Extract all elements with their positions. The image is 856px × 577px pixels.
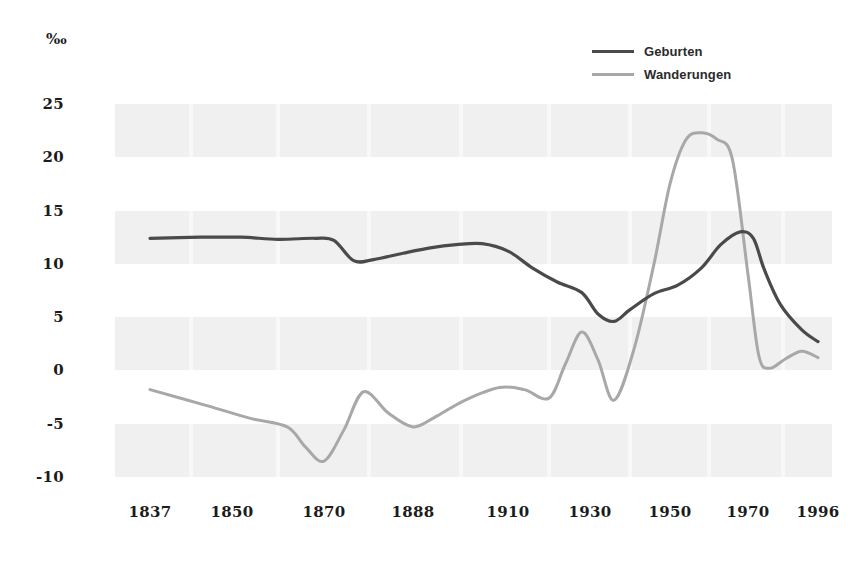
y-tick-label: 5 <box>0 308 64 326</box>
plot-area <box>115 88 832 493</box>
series-svg <box>115 88 832 493</box>
x-tick-label: 1930 <box>569 503 612 521</box>
series-line-geburten <box>150 232 818 342</box>
legend-label: Wanderungen <box>644 67 731 82</box>
x-tick-label: 1837 <box>129 503 172 521</box>
legend-label: Geburten <box>644 44 703 59</box>
chart-container: ‰ 2520151050-5-10 1837185018701888191019… <box>0 0 856 577</box>
legend-swatch-icon <box>592 73 634 76</box>
legend-swatch-icon <box>592 50 634 53</box>
y-tick-label: 25 <box>0 95 64 113</box>
legend: GeburtenWanderungen <box>592 44 731 82</box>
series-layer <box>115 88 832 493</box>
x-tick-label: 1870 <box>303 503 346 521</box>
y-tick-label: 10 <box>0 255 64 273</box>
y-tick-label: -10 <box>0 468 64 486</box>
y-tick-label: 20 <box>0 148 64 166</box>
x-tick-label: 1888 <box>392 503 435 521</box>
y-tick-label: -5 <box>0 415 64 433</box>
legend-item-geburten[interactable]: Geburten <box>592 44 731 59</box>
x-tick-label: 1910 <box>487 503 530 521</box>
legend-item-wanderungen[interactable]: Wanderungen <box>592 67 731 82</box>
y-tick-label: 0 <box>0 361 64 379</box>
x-tick-label: 1996 <box>797 503 840 521</box>
y-tick-label: 15 <box>0 202 64 220</box>
x-tick-label: 1850 <box>211 503 254 521</box>
x-tick-label: 1970 <box>727 503 770 521</box>
series-line-wanderungen <box>150 133 818 462</box>
y-axis-unit-label: ‰ <box>46 30 67 48</box>
x-tick-label: 1950 <box>649 503 692 521</box>
